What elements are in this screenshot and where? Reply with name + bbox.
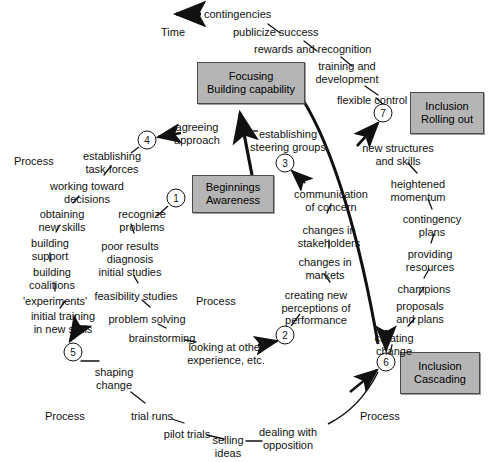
label-looking-at-other: looking at other experience, etc. bbox=[187, 341, 265, 366]
process-label-1: Process bbox=[14, 155, 54, 167]
label-obtaining-new-skills: obtaining new skills bbox=[38, 208, 85, 233]
process-label-4: Process bbox=[360, 410, 400, 422]
step-circle-3[interactable]: 3 bbox=[276, 154, 295, 173]
label-building-coalitions: building coalitions bbox=[29, 266, 75, 291]
box-inclusion-cascading-label: Inclusion Cascading bbox=[414, 360, 466, 386]
label-new-structures: new structures and skills bbox=[362, 142, 434, 167]
box-focusing-label: Focusing Building capability bbox=[207, 70, 295, 96]
label-pilot-trials: pilot trials bbox=[164, 428, 210, 441]
label-providing-resources: providing resources bbox=[406, 248, 454, 273]
label-problem-solving: problem solving bbox=[108, 313, 185, 326]
step-circle-1[interactable]: 1 bbox=[167, 189, 186, 208]
box-beginnings-label: Beginnings Awareness bbox=[206, 181, 260, 207]
box-beginnings[interactable]: Beginnings Awareness bbox=[192, 175, 274, 213]
label-shaping-change: shaping change bbox=[95, 366, 134, 391]
label-changes-stakeholders: changes in stakeholders bbox=[298, 224, 360, 249]
label-changes-markets: changes in markets bbox=[298, 256, 351, 281]
box-inclusion-cascading[interactable]: Inclusion Cascading bbox=[400, 352, 480, 394]
label-heightened-momentum: heightened momentum bbox=[390, 178, 445, 203]
label-feasibility-studies: feasibility studies bbox=[94, 290, 177, 303]
label-poor-results: poor results bbox=[101, 240, 158, 253]
label-agreeing-approach: agreeing approach bbox=[174, 121, 220, 146]
label-champions: champions bbox=[397, 283, 450, 296]
label-recognize-problems: recognize problems bbox=[118, 208, 166, 233]
box-inclusion-rolling-out[interactable]: Inclusion Rolling out bbox=[410, 92, 484, 134]
label-training-dev: training and development bbox=[316, 60, 379, 85]
label-establishing-task: establishing task forces bbox=[83, 150, 141, 175]
process-label-3: Process bbox=[45, 410, 85, 422]
diagram-canvas: Focusing Building capability Beginnings … bbox=[0, 0, 490, 462]
label-contingency-plans: contingency plans bbox=[403, 213, 462, 238]
label-contingencies: contingencies bbox=[204, 8, 271, 21]
label-brainstorming: brainstorming bbox=[129, 332, 196, 345]
step-circle-5[interactable]: 5 bbox=[64, 343, 83, 362]
label-rewards-recognition: rewards and recognition bbox=[254, 43, 371, 56]
label-building-support: building support bbox=[31, 237, 69, 262]
label-initial-training: initial training in new skills bbox=[31, 310, 95, 335]
step-circle-2[interactable]: 2 bbox=[276, 326, 295, 345]
label-trial-runs: trial runs bbox=[131, 410, 173, 423]
label-dealing-opposition: dealing with opposition bbox=[259, 426, 317, 451]
arrow-communication-to-3 bbox=[292, 171, 305, 183]
step-circle-4[interactable]: 4 bbox=[138, 131, 157, 150]
label-time: Time bbox=[161, 26, 185, 39]
label-creating-new-perceptions: creating new perceptions of performance bbox=[281, 289, 350, 327]
label-proposals-plans: proposals and plans bbox=[396, 300, 444, 325]
label-selling-ideas: selling ideas bbox=[212, 434, 243, 459]
label-communication-concern: communication of concern bbox=[294, 188, 368, 213]
box-inclusion-rolling-out-label: Inclusion Rolling out bbox=[421, 100, 473, 126]
label-experiments: 'experiments' bbox=[23, 295, 87, 308]
box-focusing[interactable]: Focusing Building capability bbox=[197, 62, 305, 104]
label-creating-change: creating change bbox=[374, 332, 413, 357]
label-establishing-steering: establishing steering groups bbox=[250, 128, 326, 153]
label-initial-studies: initial studies bbox=[99, 266, 162, 279]
label-working-toward: working toward decisions bbox=[50, 180, 124, 205]
process-label-2: Process bbox=[196, 295, 236, 307]
label-diagnosis: diagnosis bbox=[107, 253, 153, 266]
label-flexible-control: flexible control bbox=[337, 94, 407, 107]
label-publicize-success: publicize success bbox=[233, 26, 319, 39]
